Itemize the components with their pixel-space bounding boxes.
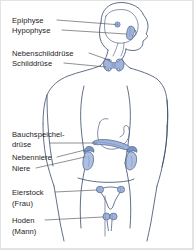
leader-hypophyse — [62, 30, 126, 34]
leader-eierstock — [55, 190, 97, 192]
label-bauchspeicheldruese-line2: drüse — [12, 140, 31, 149]
endocrine-system-figure: Epiphyse Hypophyse Nebenschilddrüse Schi… — [0, 0, 194, 250]
label-schilddruese: Schilddrüse — [12, 59, 52, 68]
label-hoden: Hoden — [12, 216, 35, 225]
label-nebenschilddruese: Nebenschilddrüse — [12, 49, 74, 58]
organ-bauchspeicheldruese — [93, 139, 130, 149]
label-eierstock: Eierstock — [12, 188, 44, 197]
label-bauchspeicheldruese-line1: Bauchspeichel- — [12, 130, 65, 139]
leader-hoden — [45, 217, 103, 220]
label-eierstock-sub: (Frau) — [12, 199, 33, 208]
label-hypophyse: Hypophyse — [12, 26, 50, 35]
anatomy-illustration — [0, 0, 194, 250]
leader-nebenniere — [57, 150, 85, 157]
label-epiphyse: Epiphyse — [12, 16, 44, 25]
leader-schilddruese — [64, 63, 106, 67]
organ-schilddruese — [104, 59, 125, 71]
label-hoden-sub: (Mann) — [12, 227, 36, 236]
organ-eierstock — [96, 186, 124, 209]
organ-niere — [83, 152, 137, 170]
leader-epiphyse — [57, 20, 115, 25]
label-nebenniere: Nebenniere — [12, 153, 52, 162]
label-niere: Niere — [12, 164, 30, 173]
organ-epiphyse — [115, 22, 120, 27]
body-outline — [43, 3, 168, 242]
